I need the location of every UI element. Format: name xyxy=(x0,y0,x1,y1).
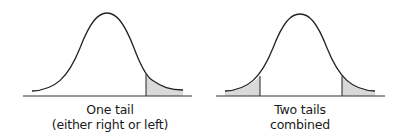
caption-line-2: (either right or left) xyxy=(40,117,180,132)
one-tail-diagram xyxy=(23,13,192,96)
caption-line-1: Two tails xyxy=(240,102,360,117)
two-tails-caption: Two tails combined xyxy=(240,102,360,132)
normal-curve xyxy=(225,14,375,91)
two-tails-diagram xyxy=(216,14,385,96)
right-tail-shade xyxy=(342,76,375,96)
normal-curve xyxy=(32,13,183,91)
caption-line-1: One tail xyxy=(40,102,180,117)
caption-line-2: combined xyxy=(240,117,360,132)
one-tail-caption: One tail (either right or left) xyxy=(40,102,180,132)
